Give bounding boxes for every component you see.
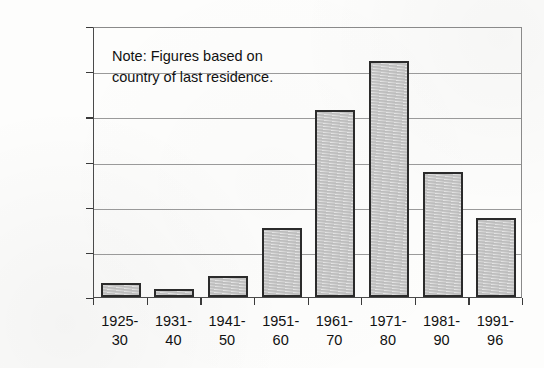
bar	[154, 289, 194, 297]
y-tick-mark	[86, 27, 93, 28]
gridline	[94, 164, 521, 165]
bar	[476, 218, 516, 297]
bar	[369, 61, 409, 297]
bar-chart-figure: 050,000100,000150,000200,000250,000300,0…	[0, 0, 544, 368]
y-tick-mark	[86, 253, 93, 254]
y-tick-mark	[86, 117, 93, 118]
x-tick-mark	[147, 298, 148, 305]
x-tick-mark	[415, 298, 416, 305]
x-tick-mark	[522, 298, 523, 305]
y-tick-mark	[86, 163, 93, 164]
x-tick-mark	[361, 298, 362, 305]
x-tick-label-line1: 1991-	[477, 313, 514, 329]
x-tick-mark	[254, 298, 255, 305]
chart-note: Note: Figures based on country of last r…	[112, 46, 273, 87]
bar	[262, 228, 302, 297]
y-tick-mark	[86, 298, 93, 299]
bar	[101, 283, 141, 297]
bar	[315, 110, 355, 297]
bar	[208, 276, 248, 297]
x-tick-mark	[468, 298, 469, 305]
x-tick-mark	[308, 298, 309, 305]
x-tick-mark	[200, 298, 201, 305]
bar	[423, 172, 463, 297]
gridline	[94, 118, 521, 119]
y-tick-mark	[86, 72, 93, 73]
x-tick-label-line2: 96	[455, 331, 535, 350]
y-tick-mark	[86, 208, 93, 209]
x-tick-label: 1991-96	[455, 312, 535, 350]
x-tick-mark	[93, 298, 94, 305]
